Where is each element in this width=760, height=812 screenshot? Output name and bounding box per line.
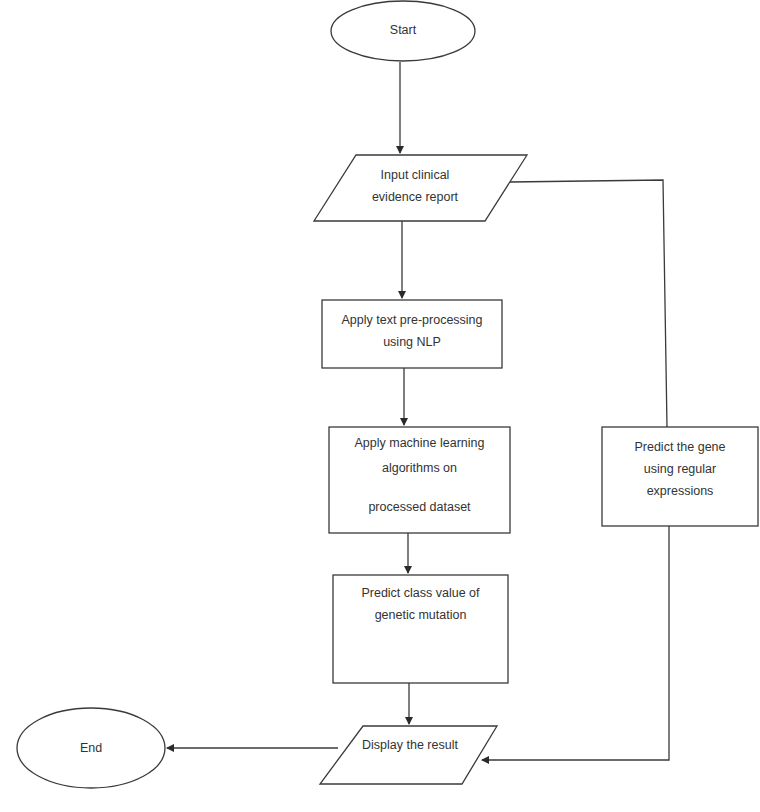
preprocess-node-label: Apply text pre-processing using NLP — [322, 306, 502, 356]
display-node-label: Display the result — [340, 733, 480, 757]
preprocess-text-line-2: using NLP — [383, 331, 441, 353]
end-text: End — [80, 737, 102, 759]
ml-text-line-1: Apply machine learning — [355, 432, 485, 454]
input-node-label: Input clinical evidence report — [330, 160, 500, 212]
end-node-label: End — [17, 736, 165, 760]
ml-text-line-2: algorithms on — [382, 457, 457, 479]
start-node-label: Start — [331, 15, 475, 45]
predict-gene-text-line-1: Predict the gene — [634, 436, 725, 458]
input-text-line-1: Input clinical — [381, 164, 450, 186]
predict-class-text-line-2: genetic mutation — [375, 604, 467, 626]
input-text-line-2: evidence report — [372, 186, 458, 208]
predict-gene-text-line-3: expressions — [647, 480, 714, 502]
start-text: Start — [390, 19, 416, 41]
predict-gene-node-label: Predict the gene using regular expressio… — [602, 436, 758, 502]
edge-predict-gene-to-display — [482, 526, 669, 760]
preprocess-text-line-1: Apply text pre-processing — [341, 309, 482, 331]
edge-input-to-predict-gene — [510, 180, 667, 427]
predict-gene-text-line-2: using regular — [644, 458, 716, 480]
flowchart-canvas — [0, 0, 760, 812]
ml-node-label: Apply machine learning algorithms on pro… — [329, 432, 510, 518]
predict-class-node-label: Predict class value of genetic mutation — [333, 581, 508, 627]
display-text: Display the result — [362, 734, 458, 756]
predict-class-text-line-1: Predict class value of — [361, 582, 479, 604]
ml-text-line-3: processed dataset — [368, 496, 470, 518]
